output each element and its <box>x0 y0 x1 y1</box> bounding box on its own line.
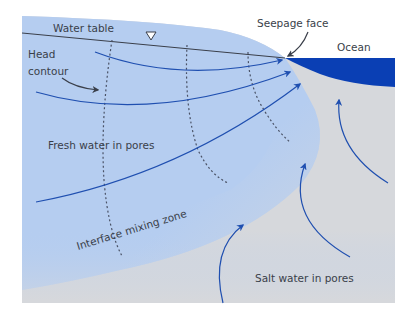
fresh-water-label: Fresh water in pores <box>48 139 155 151</box>
salt-water-label: Salt water in pores <box>255 272 354 284</box>
ocean-label: Ocean <box>337 41 371 53</box>
head-contour-label-1: Head <box>28 48 55 60</box>
water-table-label: Water table <box>53 22 114 34</box>
seepage-face-label: Seepage face <box>257 17 329 29</box>
aquifer-diagram: Water table Head contour Seepage face Oc… <box>0 0 416 319</box>
seepage-face-pointer <box>288 32 308 56</box>
head-contour-label-2: contour <box>28 65 69 77</box>
